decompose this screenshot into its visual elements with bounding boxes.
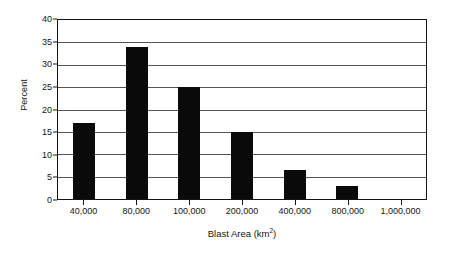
x-axis-title: Blast Area (km2) bbox=[57, 228, 427, 239]
y-axis-tick-label: 20 bbox=[42, 105, 52, 115]
bar bbox=[178, 87, 200, 199]
x-axis-tick-mark bbox=[83, 200, 84, 205]
x-axis-tick-label: 1,000,000 bbox=[374, 206, 427, 222]
x-axis-tick-cell bbox=[216, 200, 269, 205]
x-axis-tick-label: 100,000 bbox=[163, 206, 216, 222]
x-axis-tick-label: 40,000 bbox=[57, 206, 110, 222]
x-axis-tick-cell bbox=[321, 200, 374, 205]
y-axis-tick-label: 15 bbox=[42, 127, 52, 137]
bar bbox=[284, 170, 306, 199]
x-axis-tick-mark bbox=[189, 200, 190, 205]
x-axis-tick-labels: 40,00080,000100,000200,000400,000800,000… bbox=[57, 206, 427, 222]
bar-slot bbox=[321, 20, 374, 199]
x-axis-tick-mark bbox=[295, 200, 296, 205]
x-axis-tick-cell bbox=[110, 200, 163, 205]
bar-slot bbox=[268, 20, 321, 199]
y-axis-tick-label: 10 bbox=[42, 150, 52, 160]
bar-slot bbox=[163, 20, 216, 199]
y-axis-tick-label: 5 bbox=[47, 172, 52, 182]
bar bbox=[73, 123, 95, 199]
x-axis-tick-mark bbox=[348, 200, 349, 205]
x-axis-tick-cell bbox=[57, 200, 110, 205]
bar-slot bbox=[216, 20, 269, 199]
x-axis-tick-cell bbox=[163, 200, 216, 205]
x-axis-title-suffix: ) bbox=[273, 228, 276, 239]
bar-slot bbox=[58, 20, 111, 199]
y-axis-tick-label: 25 bbox=[42, 82, 52, 92]
x-axis-title-text: Blast Area (km bbox=[208, 228, 270, 239]
x-axis-tick-label: 400,000 bbox=[268, 206, 321, 222]
y-axis-tick-label: 35 bbox=[42, 37, 52, 47]
x-axis-tick-label: 200,000 bbox=[216, 206, 269, 222]
x-axis-tick-label: 800,000 bbox=[321, 206, 374, 222]
y-axis-tick-label: 0 bbox=[47, 195, 52, 205]
bar-slot bbox=[111, 20, 164, 199]
bar bbox=[336, 186, 358, 199]
y-axis-tick-labels: 0510152025303540 bbox=[30, 19, 52, 200]
bar-series bbox=[58, 20, 426, 199]
x-axis-tick-marks bbox=[57, 200, 427, 205]
x-axis-tick-cell bbox=[374, 200, 427, 205]
bar bbox=[231, 132, 253, 199]
y-axis-tick-label: 40 bbox=[42, 14, 52, 24]
x-axis-tick-mark bbox=[136, 200, 137, 205]
y-axis-title-text: Percent bbox=[19, 79, 29, 111]
bar-slot bbox=[373, 20, 426, 199]
plot-area bbox=[57, 19, 427, 200]
y-axis-tick-label: 30 bbox=[42, 59, 52, 69]
bar bbox=[126, 47, 148, 199]
bar-chart-figure: Percent 0510152025303540 40,00080,000100… bbox=[0, 0, 449, 254]
x-axis-tick-label: 80,000 bbox=[110, 206, 163, 222]
x-axis-tick-mark bbox=[401, 200, 402, 205]
x-axis-tick-mark bbox=[242, 200, 243, 205]
x-axis-tick-cell bbox=[268, 200, 321, 205]
